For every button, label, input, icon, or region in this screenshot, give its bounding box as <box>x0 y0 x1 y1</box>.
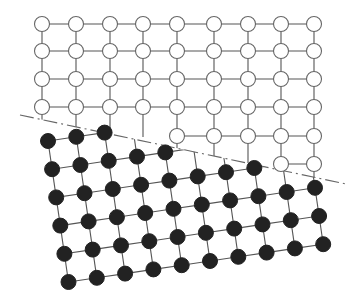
open-atom <box>241 17 256 32</box>
open-atom <box>103 44 118 59</box>
open-atom <box>136 100 151 115</box>
filled-atom <box>198 225 213 240</box>
filled-atom <box>81 214 96 229</box>
filled-atom <box>41 134 56 149</box>
filled-atom <box>283 213 298 228</box>
filled-atom <box>231 249 246 264</box>
filled-atom <box>203 254 218 269</box>
filled-atom <box>251 189 266 204</box>
open-atom <box>241 100 256 115</box>
filled-atom <box>146 262 161 277</box>
open-atom <box>136 72 151 87</box>
open-atom <box>307 129 322 144</box>
open-atom <box>69 72 84 87</box>
open-atom <box>103 100 118 115</box>
filled-atom <box>77 186 92 201</box>
filled-atom <box>142 234 157 249</box>
filled-atom <box>69 129 84 144</box>
open-atom <box>170 100 185 115</box>
filled-atom <box>308 180 323 195</box>
filled-atom <box>162 173 177 188</box>
filled-atom <box>166 201 181 216</box>
filled-atom <box>255 217 270 232</box>
filled-atom <box>109 210 124 225</box>
filled-atom <box>190 169 205 184</box>
filled-atom <box>101 153 116 168</box>
open-atom <box>103 17 118 32</box>
filled-atom <box>158 145 173 160</box>
filled-atom <box>174 258 189 273</box>
filled-atom <box>312 209 327 224</box>
open-atom <box>307 72 322 87</box>
open-atom <box>207 129 222 144</box>
open-atom <box>307 44 322 59</box>
lattice-diagram <box>0 0 356 303</box>
filled-atom <box>57 246 72 261</box>
open-atom <box>35 72 50 87</box>
open-atom <box>35 100 50 115</box>
open-atom <box>207 17 222 32</box>
filled-atom <box>85 242 100 257</box>
open-atom <box>274 44 289 59</box>
open-atom <box>274 129 289 144</box>
open-atom <box>241 72 256 87</box>
open-atom <box>241 129 256 144</box>
open-atom <box>307 17 322 32</box>
open-atom <box>207 44 222 59</box>
open-atom <box>274 100 289 115</box>
filled-atom <box>316 237 331 252</box>
open-atom <box>170 129 185 144</box>
open-atom <box>35 17 50 32</box>
filled-atom <box>227 221 242 236</box>
open-atom <box>136 44 151 59</box>
open-atom <box>307 100 322 115</box>
open-atom <box>274 17 289 32</box>
open-atom <box>274 72 289 87</box>
filled-atom <box>279 185 294 200</box>
filled-atom <box>287 241 302 256</box>
open-atom <box>307 157 322 172</box>
filled-atom <box>97 125 112 140</box>
open-atom <box>103 72 118 87</box>
filled-atom <box>73 158 88 173</box>
open-atom <box>274 157 289 172</box>
open-atom <box>69 17 84 32</box>
open-atom <box>170 44 185 59</box>
open-atom <box>241 44 256 59</box>
open-atom <box>136 17 151 32</box>
filled-atom <box>219 165 234 180</box>
open-atom <box>207 100 222 115</box>
filled-atom <box>89 270 104 285</box>
open-atom <box>207 72 222 87</box>
filled-atom <box>49 190 64 205</box>
open-atom <box>69 100 84 115</box>
filled-atom <box>61 275 76 290</box>
filled-atom <box>45 162 60 177</box>
filled-atom <box>194 197 209 212</box>
filled-atom <box>247 161 262 176</box>
open-atom <box>170 17 185 32</box>
filled-atom <box>118 266 133 281</box>
filled-atom <box>105 182 120 197</box>
filled-atom <box>114 238 129 253</box>
filled-atom <box>138 206 153 221</box>
open-atom <box>35 44 50 59</box>
open-atom <box>69 44 84 59</box>
filled-atom <box>170 230 185 245</box>
filled-atom <box>130 149 145 164</box>
filled-atom <box>223 193 238 208</box>
open-atom <box>170 72 185 87</box>
filled-atom <box>134 177 149 192</box>
filled-atom <box>259 245 274 260</box>
filled-atom <box>53 218 68 233</box>
